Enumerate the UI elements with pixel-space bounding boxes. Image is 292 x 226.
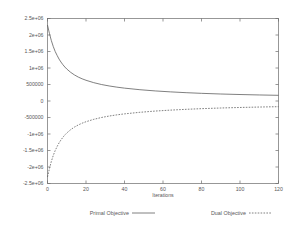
y-tick-label: -2e+06	[27, 164, 43, 170]
x-tick-label: 40	[122, 186, 128, 192]
y-tick-label: 2.5e+06	[25, 15, 44, 21]
y-tick-label: 1e+06	[29, 65, 44, 71]
y-tick-label: -2.5e+06	[23, 180, 44, 186]
y-tick-label: 2e+06	[29, 32, 44, 38]
x-tick-label: 0	[46, 186, 49, 192]
chart-container: 020406080100120 -2.5e+06-2e+06-1.5e+06-1…	[0, 0, 292, 226]
y-tick-label: 0	[41, 98, 44, 104]
x-tick-label: 100	[236, 186, 245, 192]
legend-label-1: Primal Objective	[90, 210, 129, 216]
x-tick-label: 80	[199, 186, 205, 192]
y-tick-label: 1.5e+06	[25, 48, 44, 54]
y-tick-label: -1e+06	[27, 131, 43, 137]
x-axis-title: Iterations	[152, 192, 174, 198]
y-tick-label: -500000	[24, 114, 43, 120]
y-tick-label: 500000	[26, 81, 43, 87]
x-tick-label: 120	[274, 186, 283, 192]
plot-svg: 020406080100120 -2.5e+06-2e+06-1.5e+06-1…	[0, 0, 292, 226]
y-tick-label: -1.5e+06	[23, 147, 44, 153]
legend-label-2: Dual Objective	[211, 210, 246, 216]
chart-background	[0, 0, 292, 226]
x-tick-label: 20	[83, 186, 89, 192]
